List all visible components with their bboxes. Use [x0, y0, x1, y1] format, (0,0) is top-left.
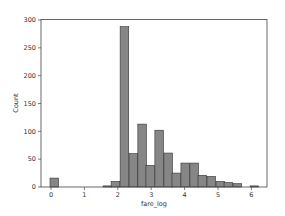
histogram-chart: 0123456 050100150200250300 fare_log Coun…	[0, 0, 285, 216]
histogram-bar	[181, 163, 190, 187]
histogram-bar	[164, 153, 173, 187]
x-tick-label: 0	[49, 191, 53, 199]
x-tick-label: 5	[216, 191, 220, 199]
y-tick-label: 300	[24, 16, 36, 24]
y-tick-label: 100	[24, 128, 36, 136]
histogram-bar	[129, 154, 138, 187]
histogram-bars	[50, 27, 259, 187]
x-tick-label: 6	[249, 191, 253, 199]
histogram-bar	[233, 184, 242, 187]
histogram-bar	[198, 175, 207, 187]
histogram-bar	[224, 183, 233, 187]
y-tick-label: 50	[28, 155, 36, 163]
histogram-bar	[50, 178, 59, 187]
y-axis-ticks: 050100150200250300	[24, 16, 41, 191]
y-tick-label: 0	[32, 183, 36, 191]
histogram-bar	[111, 181, 120, 187]
x-tick-label: 2	[116, 191, 120, 199]
plot-frame	[41, 20, 267, 188]
y-tick-label: 250	[24, 44, 36, 52]
histogram-bar	[190, 163, 199, 187]
histogram-bar	[138, 124, 147, 187]
x-tick-label: 3	[149, 191, 153, 199]
histogram-bar	[172, 173, 181, 187]
histogram-bar	[155, 130, 164, 187]
y-tick-label: 200	[24, 72, 36, 80]
x-tick-label: 1	[82, 191, 86, 199]
y-tick-label: 150	[24, 100, 36, 108]
histogram-bar	[146, 165, 155, 187]
histogram-bar	[207, 176, 216, 187]
histogram-bar	[216, 181, 225, 187]
x-axis-label: fare_log	[141, 200, 167, 208]
x-axis-ticks: 0123456	[49, 187, 254, 199]
histogram-bar	[120, 27, 129, 187]
y-axis-label: Count	[12, 93, 20, 113]
x-tick-label: 4	[183, 191, 187, 199]
